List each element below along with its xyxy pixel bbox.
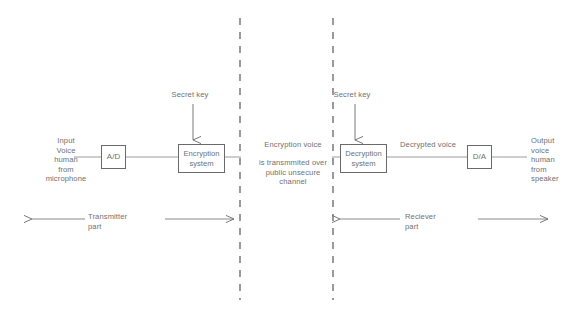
encryption-system-label: Encryption system <box>184 149 220 168</box>
analog-to-digital-block: A/D <box>101 145 126 169</box>
encryption-voice-label: Encryption voice <box>248 140 338 150</box>
input-source-label: Input Voice human from microphone <box>38 136 94 184</box>
digital-to-analog-block: D/A <box>467 145 492 169</box>
unsecure-channel-label: is transmmited over public unsecure chan… <box>244 158 342 187</box>
analog-to-digital-label: A/D <box>107 152 120 161</box>
secret-key-left-label: Secret key <box>160 90 220 100</box>
digital-to-analog-label: D/A <box>473 152 486 161</box>
diagram-canvas: A/D Encryption system Decryption system … <box>0 0 588 317</box>
decryption-system-block: Decryption system <box>340 144 387 173</box>
transmitter-part-label: Transmitter part <box>88 212 160 231</box>
decryption-system-label: Decryption system <box>345 149 381 168</box>
decrypted-voice-label: Decrypted voice <box>392 140 464 150</box>
output-sink-label: Output voice human from speaker <box>531 136 587 184</box>
encryption-system-block: Encryption system <box>178 144 225 173</box>
secret-key-right-label: Secret key <box>322 90 382 100</box>
reciever-part-label: Reciever part <box>405 212 471 231</box>
